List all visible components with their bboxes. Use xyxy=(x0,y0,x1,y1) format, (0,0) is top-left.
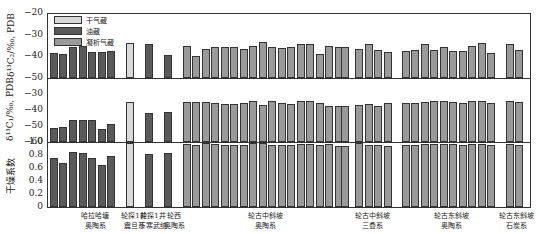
bar-oil xyxy=(164,153,172,207)
x-group-label: 轮古中斜坡奥陶系 xyxy=(248,211,283,231)
bar-condensate xyxy=(316,145,324,207)
y-tick-label: −50 xyxy=(15,120,43,130)
bar-condensate xyxy=(192,56,200,78)
bar-condensate xyxy=(515,102,523,142)
bar-condensate xyxy=(287,145,295,207)
bar-dry_gas xyxy=(126,102,134,142)
bar-oil xyxy=(98,129,106,142)
bar-condensate xyxy=(487,53,495,78)
bar-condensate xyxy=(221,104,229,142)
bar-condensate xyxy=(430,50,438,78)
bar-condensate xyxy=(278,103,286,142)
bar-condensate xyxy=(365,104,373,142)
x-group-label: 轮古中斜坡三叠系 xyxy=(355,211,390,231)
bar-condensate xyxy=(449,102,457,142)
chart-figure: −20−30−40−50δ¹³C₂/‰, PDB−30−40−50−60δ¹³C… xyxy=(0,0,540,234)
bar-condensate xyxy=(341,106,349,142)
x-group-label: 轮古东斜坡石炭系 xyxy=(499,211,534,231)
bar-condensate xyxy=(202,102,210,142)
bar-condensate xyxy=(402,51,410,78)
bar-condensate xyxy=(355,105,363,142)
bar-condensate xyxy=(449,144,457,207)
bar-oil xyxy=(59,127,67,142)
bar-condensate xyxy=(306,44,314,78)
bar-condensate xyxy=(316,103,324,142)
bar-condensate xyxy=(221,47,229,78)
bar-condensate xyxy=(421,102,429,142)
bar-condensate xyxy=(240,145,248,207)
bar-condensate xyxy=(487,103,495,142)
y-tick-label: −50 xyxy=(15,72,43,82)
legend-swatch xyxy=(54,27,82,35)
bar-condensate xyxy=(240,49,248,78)
x-group-label: 哈拉哈塘奥陶系 xyxy=(81,211,109,231)
bar-condensate xyxy=(341,47,349,78)
bar-oil xyxy=(79,153,87,207)
bar-condensate xyxy=(411,103,419,142)
y-tick-label: 0.8 xyxy=(15,149,43,159)
bar-condensate xyxy=(325,46,333,79)
bar-condensate xyxy=(374,50,382,78)
bar-condensate xyxy=(341,146,349,207)
bar-condensate xyxy=(440,101,448,142)
bar-condensate xyxy=(287,47,295,78)
bar-condensate xyxy=(192,145,200,207)
bar-condensate xyxy=(402,103,410,142)
panel-c1 xyxy=(47,78,531,143)
bar-oil xyxy=(164,55,172,78)
bar-condensate xyxy=(478,144,486,207)
legend: 干气藏油藏凝析气藏 xyxy=(54,15,114,48)
bar-condensate xyxy=(440,47,448,78)
bar-oil xyxy=(107,156,115,207)
bar-oil xyxy=(88,52,96,78)
bar-condensate xyxy=(478,101,486,142)
bar-oil xyxy=(88,120,96,142)
bar-condensate xyxy=(249,101,257,142)
bar-condensate xyxy=(183,144,191,207)
bar-oil xyxy=(98,52,106,78)
bar-condensate xyxy=(211,103,219,142)
bar-condensate xyxy=(440,144,448,207)
bar-condensate xyxy=(515,50,523,78)
bar-oil xyxy=(50,158,58,207)
bar-oil xyxy=(107,124,115,142)
bar-condensate xyxy=(374,106,382,142)
legend-label: 凝析气藏 xyxy=(86,37,114,47)
bar-oil xyxy=(59,163,67,207)
legend-item-dry_gas: 干气藏 xyxy=(54,15,114,25)
bar-oil xyxy=(69,152,77,207)
bar-condensate xyxy=(487,145,495,207)
bar-condensate xyxy=(365,44,373,78)
bar-condensate xyxy=(478,43,486,78)
bar-condensate xyxy=(325,144,333,207)
panel-c2 xyxy=(47,13,531,79)
bar-condensate xyxy=(402,145,410,207)
y-axis-label: δ¹³C₂/‰, PDB xyxy=(5,12,15,77)
y-tick-label: −30 xyxy=(15,29,43,39)
bar-condensate xyxy=(230,47,238,78)
legend-label: 干气藏 xyxy=(86,15,107,25)
bar-condensate xyxy=(506,144,514,207)
bar-condensate xyxy=(259,105,267,142)
bar-condensate xyxy=(459,103,467,142)
bar-condensate xyxy=(459,145,467,207)
bar-condensate xyxy=(211,144,219,207)
bar-oil xyxy=(79,46,87,79)
bar-condensate xyxy=(430,101,438,142)
legend-item-oil: 油藏 xyxy=(54,26,114,36)
bar-condensate xyxy=(259,42,267,78)
y-axis-label: δ¹³C₁/‰, PDB xyxy=(5,77,15,141)
bar-condensate xyxy=(287,104,295,142)
bar-condensate xyxy=(183,46,191,79)
bar-oil xyxy=(59,54,67,78)
bar-condensate xyxy=(211,47,219,78)
bar-condensate xyxy=(411,50,419,78)
bar-condensate xyxy=(411,145,419,207)
legend-label: 油藏 xyxy=(86,26,100,36)
bar-condensate xyxy=(468,46,476,79)
bar-condensate xyxy=(374,145,382,207)
bar-condensate xyxy=(183,102,191,142)
bar-condensate xyxy=(278,48,286,78)
bar-condensate xyxy=(230,145,238,207)
y-tick-label: 0.2 xyxy=(15,188,43,198)
